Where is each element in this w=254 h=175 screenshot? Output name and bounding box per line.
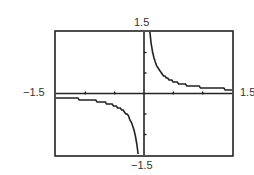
y-max-label: 1.5: [134, 17, 149, 28]
x-max-label: 1.5: [240, 87, 254, 98]
axes: [56, 32, 232, 155]
curve-left-branch: [56, 98, 138, 154]
x-min-label: −1.5: [23, 87, 45, 98]
y-min-label: −1.5: [131, 160, 153, 171]
curve-right-branch: [150, 32, 232, 90]
